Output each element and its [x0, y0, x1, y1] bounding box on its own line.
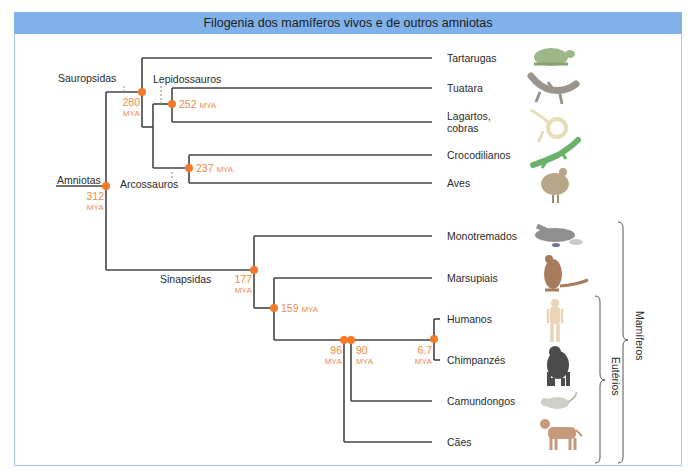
clade-label-lepidossauros: Lepidossauros [153, 73, 221, 85]
snake-icon [531, 110, 566, 142]
node-date-237: 237 MYA [196, 162, 233, 176]
kangaroo-icon [544, 255, 588, 290]
euterios-brace [595, 296, 605, 463]
platypus-icon [535, 226, 583, 247]
taxon-monotremados: Monotremados [447, 230, 517, 242]
clade-label-amniotas: Amniotas [57, 174, 101, 186]
tuatara-icon [531, 76, 576, 104]
taxon-crocodilianos: Crocodilianos [447, 149, 511, 161]
mamiferos-brace [618, 222, 628, 463]
taxon-camundongos: Camundongos [447, 395, 515, 407]
turtle-icon [534, 48, 575, 66]
tree-branches [56, 58, 440, 442]
phylogenetic-tree [0, 0, 693, 473]
clade-label-sauropsidas: Sauropsidas [58, 72, 116, 84]
node-date-177: 177MYA [232, 273, 252, 297]
human-icon [548, 299, 562, 342]
taxon-tuatara: Tuatara [447, 82, 483, 94]
bird-icon [541, 168, 569, 203]
taxon-caes: Cães [447, 436, 472, 448]
mouse-icon [541, 392, 576, 409]
taxon-marsupiais: Marsupiais [447, 272, 498, 284]
group-label-mamiferos: Mamíferos [634, 311, 646, 361]
chimpanzee-icon [547, 346, 569, 386]
node-date-312: 312MYA [84, 190, 104, 214]
group-label-euterios: Eutérios [610, 357, 622, 396]
taxon-lagartos-cobras: Lagartos, cobras [447, 110, 491, 134]
node-date-280: 280MYA [118, 96, 140, 120]
node-date-90: 90MYA [356, 344, 373, 368]
node-date-159: 159 MYA [281, 302, 318, 316]
dog-icon [540, 419, 582, 450]
clade-label-arcossauros: Arcossauros [120, 178, 178, 190]
node-date-96: 96MYA [322, 344, 342, 368]
taxon-humanos: Humanos [447, 313, 492, 325]
crocodile-icon [533, 140, 578, 168]
clade-label-sinapsidas: Sinapsidas [160, 273, 211, 285]
group-braces [595, 222, 628, 463]
node-date-6-7: 6.7MYA [410, 344, 432, 368]
node-date-252: 252 MYA [179, 98, 216, 112]
taxon-aves: Aves [447, 177, 470, 189]
taxon-tartarugas: Tartarugas [447, 52, 497, 64]
taxon-chimpanzes: Chimpanzés [447, 354, 505, 366]
